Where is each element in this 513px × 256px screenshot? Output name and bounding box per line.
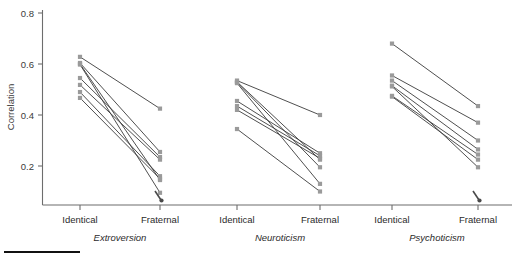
- data-point-marker: [318, 182, 322, 186]
- y-tick-label-0.6: 0.6: [21, 59, 34, 70]
- y-tick-label-0.2: 0.2: [21, 161, 34, 172]
- data-point-marker: [476, 152, 480, 156]
- data-point-marker: [78, 90, 82, 94]
- data-point-marker: [78, 83, 82, 87]
- group-label-extroversion: Extroversion: [94, 232, 147, 243]
- data-point-marker: [476, 147, 480, 151]
- data-point-marker: [78, 62, 82, 66]
- group-label-neuroticism: Neuroticism: [255, 232, 305, 243]
- x-tick-label-identical-3: Identical: [374, 214, 409, 225]
- data-point-marker: [235, 81, 239, 85]
- x-tick-label-fraternal-1: Fraternal: [141, 214, 179, 225]
- data-point-marker: [476, 104, 480, 108]
- x-tick-label-fraternal-2: Fraternal: [301, 214, 339, 225]
- data-point-marker: [158, 107, 162, 111]
- data-point-marker: [390, 73, 394, 77]
- data-point-marker: [318, 189, 322, 193]
- x-tick-label-fraternal-3: Fraternal: [459, 214, 497, 225]
- data-point-marker: [158, 158, 162, 162]
- y-tick-label-0.8: 0.8: [21, 8, 34, 19]
- correlation-twin-study-chart: 0.8 0.6 0.4 0.2 Correlation Identical Fr…: [0, 0, 513, 256]
- y-tick-label-0.4: 0.4: [21, 110, 34, 121]
- data-point-marker: [78, 96, 82, 100]
- data-point-marker: [78, 76, 82, 80]
- data-point-marker: [390, 95, 394, 99]
- data-point-marker: [158, 178, 162, 182]
- data-point-marker: [158, 191, 162, 195]
- data-point-marker: [390, 78, 394, 82]
- group-label-psychoticism: Psychoticism: [409, 232, 465, 243]
- y-axis-title: Correlation: [5, 84, 16, 130]
- data-point-marker: [476, 165, 480, 169]
- data-point-marker: [318, 158, 322, 162]
- data-point-marker: [476, 121, 480, 125]
- data-point-marker: [78, 55, 82, 59]
- data-point-marker: [476, 138, 480, 142]
- x-tick-label-identical-1: Identical: [62, 214, 97, 225]
- data-point-marker: [390, 84, 394, 88]
- data-point-marker: [390, 42, 394, 46]
- data-point-marker: [235, 108, 239, 112]
- data-point-marker: [318, 113, 322, 117]
- data-point-marker: [476, 158, 480, 162]
- data-point-marker: [235, 104, 239, 108]
- data-point-marker: [235, 127, 239, 131]
- data-point-marker: [235, 99, 239, 103]
- x-tick-label-identical-2: Identical: [219, 214, 254, 225]
- data-point-marker: [158, 150, 162, 154]
- data-point-marker: [318, 165, 322, 169]
